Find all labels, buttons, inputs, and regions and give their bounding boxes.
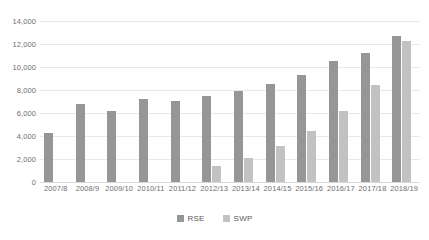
x-axis-tick-label: 2013/14 bbox=[232, 184, 260, 193]
bar-rse bbox=[329, 61, 338, 182]
bar-group bbox=[40, 21, 72, 182]
y-axis-tick-label: 6,000 bbox=[17, 109, 36, 118]
bar-rse bbox=[171, 101, 180, 182]
bar-swp bbox=[212, 166, 221, 182]
bar-group bbox=[293, 21, 325, 182]
bar-swp bbox=[402, 41, 411, 182]
x-axis-tick-label: 2012/13 bbox=[200, 184, 228, 193]
bar-group bbox=[103, 21, 135, 182]
bar-group bbox=[72, 21, 104, 182]
bar-group bbox=[262, 21, 294, 182]
bar-rse bbox=[392, 36, 401, 182]
bar-swp bbox=[371, 85, 380, 182]
x-axis-tick-label: 2009/10 bbox=[105, 184, 133, 193]
bar-rse bbox=[44, 133, 53, 182]
x-axis-tick-label: 2007/8 bbox=[44, 184, 68, 193]
legend-item-rse[interactable]: RSE bbox=[177, 214, 205, 223]
bar-group bbox=[135, 21, 167, 182]
bar-group bbox=[388, 21, 420, 182]
x-axis-tick-label: 2014/15 bbox=[264, 184, 292, 193]
y-axis-tick-label: 0 bbox=[32, 178, 36, 187]
x-axis-tick-label: 2011/12 bbox=[169, 184, 196, 193]
legend-label: RSE bbox=[188, 214, 205, 223]
bar-group bbox=[198, 21, 230, 182]
y-axis: 14,00012,00010,0008,0006,0004,0002,0000 bbox=[0, 21, 36, 182]
bar-swp bbox=[339, 111, 348, 182]
x-axis-tick-label: 2017/18 bbox=[359, 184, 387, 193]
bar-rse bbox=[107, 111, 116, 182]
bar-rse bbox=[234, 91, 243, 182]
bar-group bbox=[230, 21, 262, 182]
bar-chart: 14,00012,00010,0008,0006,0004,0002,0000 … bbox=[0, 0, 429, 240]
y-axis-tick-label: 12,000 bbox=[12, 40, 36, 49]
bar-swp bbox=[307, 131, 316, 182]
bars-layer bbox=[40, 21, 420, 182]
bar-rse bbox=[202, 96, 211, 182]
x-axis: 2007/82008/92009/102010/112011/122012/13… bbox=[40, 184, 420, 198]
chart-legend: RSESWP bbox=[0, 214, 429, 223]
bar-group bbox=[357, 21, 389, 182]
bar-rse bbox=[266, 84, 275, 182]
bar-rse bbox=[76, 104, 85, 182]
bar-group bbox=[167, 21, 199, 182]
bar-group bbox=[325, 21, 357, 182]
x-axis-tick-label: 2010/11 bbox=[137, 184, 164, 193]
bar-swp bbox=[276, 146, 285, 182]
x-axis-tick-label: 2018/19 bbox=[390, 184, 418, 193]
y-axis-tick-label: 4,000 bbox=[17, 132, 36, 141]
legend-label: SWP bbox=[234, 214, 253, 223]
bar-rse bbox=[361, 53, 370, 182]
y-axis-tick-label: 2,000 bbox=[17, 155, 36, 164]
legend-swatch-icon bbox=[223, 215, 230, 222]
x-axis-tick-label: 2015/16 bbox=[295, 184, 323, 193]
x-axis-tick-label: 2016/17 bbox=[327, 184, 355, 193]
y-axis-tick-label: 8,000 bbox=[17, 86, 36, 95]
gridline bbox=[40, 182, 420, 183]
x-axis-tick-label: 2008/9 bbox=[76, 184, 100, 193]
y-axis-tick-label: 10,000 bbox=[12, 63, 36, 72]
legend-swatch-icon bbox=[177, 215, 184, 222]
y-axis-tick-label: 14,000 bbox=[12, 17, 36, 26]
bar-rse bbox=[139, 99, 148, 182]
bar-swp bbox=[244, 158, 253, 182]
legend-item-swp[interactable]: SWP bbox=[223, 214, 253, 223]
bar-rse bbox=[297, 75, 306, 182]
